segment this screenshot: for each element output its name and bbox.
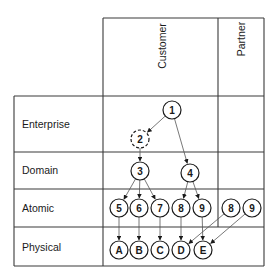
column-header-customer: Customer [156, 23, 168, 69]
node-label: 2 [137, 134, 143, 145]
node-enterprise-customer-2: 2 [131, 130, 149, 148]
node-domain-customer-4: 4 [181, 164, 199, 182]
node-label: 1 [169, 105, 175, 116]
node-atomic-customer-9: 9 [193, 199, 211, 217]
node-domain-customer-3: 3 [131, 162, 149, 180]
edge-n1-to-n4 [175, 119, 188, 164]
node-label: 8 [178, 203, 184, 214]
row-header-domain: Domain [22, 164, 58, 176]
node-atomic-partner-9: 9 [243, 199, 261, 217]
node-physical-customer-C: C [151, 241, 169, 259]
nodes: 12345678989ABCDE [110, 101, 261, 259]
node-physical-customer-E: E [194, 241, 212, 259]
node-label: 8 [228, 203, 234, 214]
edge-n9-to-nE [202, 217, 203, 240]
node-physical-customer-D: D [172, 241, 190, 259]
column-header-partner: Partner [235, 21, 247, 56]
row-header-physical: Physical [22, 241, 61, 253]
node-label: 9 [249, 203, 255, 214]
node-enterprise-customer-1: 1 [163, 101, 181, 119]
edge-p9-to-nE [211, 214, 246, 244]
node-label: E [200, 245, 207, 256]
node-atomic-customer-7: 7 [151, 199, 169, 217]
edge-n4-to-n8 [184, 182, 188, 199]
edge-n3-to-n6 [139, 180, 140, 198]
node-atomic-customer-8: 8 [172, 199, 190, 217]
layered-architecture-diagram: Customer Partner Enterprise Domain Atomi… [0, 0, 278, 280]
node-label: 6 [136, 203, 142, 214]
node-label: 9 [199, 203, 205, 214]
node-label: 4 [187, 168, 193, 179]
edge-n1-to-n2 [147, 116, 165, 132]
node-label: D [177, 245, 184, 256]
node-label: A [115, 245, 122, 256]
node-label: 3 [137, 166, 143, 177]
node-physical-customer-A: A [110, 241, 128, 259]
edge-p8-to-nD [189, 214, 224, 244]
node-label: 5 [116, 203, 122, 214]
node-label: 7 [157, 203, 163, 214]
node-label: B [135, 245, 142, 256]
row-header-enterprise: Enterprise [22, 118, 70, 130]
node-atomic-partner-8: 8 [222, 199, 240, 217]
node-label: C [156, 245, 163, 256]
node-atomic-customer-6: 6 [130, 199, 148, 217]
node-physical-customer-B: B [130, 241, 148, 259]
row-header-atomic: Atomic [22, 202, 54, 214]
column-headers: Customer Partner [156, 21, 247, 68]
node-atomic-customer-5: 5 [110, 199, 128, 217]
row-headers: Enterprise Domain Atomic Physical [22, 118, 70, 253]
edge-n4-to-n9 [193, 182, 199, 199]
